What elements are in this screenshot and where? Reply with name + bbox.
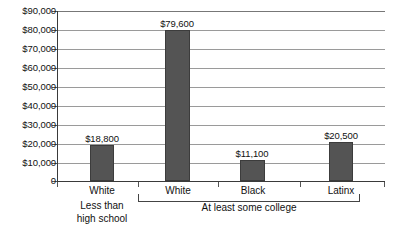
x-tickmark-2 (218, 182, 219, 187)
group-label-less-than-high-school-line1: Less than (62, 199, 142, 212)
gridline-50000 (57, 87, 385, 88)
y-axis-label-10000: $10,000 (0, 158, 56, 168)
gridline-80000 (57, 30, 385, 31)
gridline-30000 (57, 125, 385, 126)
bar-some-college-black (240, 160, 265, 181)
group-bracket-some-college (138, 194, 360, 202)
y-axis-label-60000: $60,000 (0, 63, 56, 73)
group-label-less-than-high-school-line2: high school (62, 212, 142, 225)
gridline-60000 (57, 68, 385, 69)
bar-value-label-1: $79,600 (147, 18, 207, 29)
x-tickmark-4 (384, 182, 385, 187)
gridline-40000 (57, 106, 385, 107)
bar-less-than-high-school-white (90, 145, 114, 181)
x-tickmark-1 (138, 182, 139, 187)
bar-value-label-3: $20,500 (311, 130, 371, 141)
y-axis-label-0: 0 (0, 176, 56, 186)
gridline-90000 (57, 11, 385, 12)
y-axis-label-20000: $20,000 (0, 139, 56, 149)
bar-value-label-0: $18,800 (72, 133, 132, 144)
y-axis-label-40000: $40,000 (0, 101, 56, 111)
y-axis-line (57, 11, 58, 181)
bar-some-college-latinx (329, 142, 353, 181)
y-axis-label-30000: $30,000 (0, 120, 56, 130)
bar-some-college-white (165, 30, 190, 181)
axis-baseline (57, 181, 385, 182)
bar-chart: $90,000 $80,000 $70,000 $60,000 $50,000 … (0, 0, 395, 235)
gridline-70000 (57, 49, 385, 50)
y-axis-label-50000: $50,000 (0, 82, 56, 92)
y-axis-label-90000: $90,000 (0, 6, 56, 16)
x-tickmark-3 (300, 182, 301, 187)
x-axis-category-0: White (72, 185, 132, 197)
bar-value-label-2: $11,100 (222, 148, 282, 159)
y-axis-label-80000: $80,000 (0, 25, 56, 35)
group-label-at-least-some-college: At least some college (179, 202, 319, 214)
y-axis-label-70000: $70,000 (0, 44, 56, 54)
x-tickmark-0 (57, 182, 58, 187)
